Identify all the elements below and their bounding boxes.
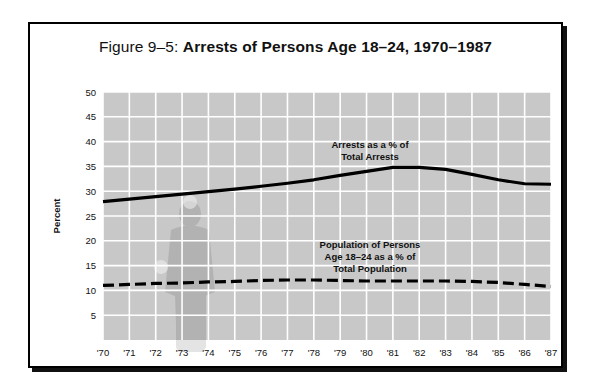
source-note: Source: Data from Census Bureau. [85,369,220,370]
svg-text:'87: '87 [545,347,557,358]
svg-text:Arrests as a % of: Arrests as a % of [331,139,409,150]
figure-number: Figure 9–5: [99,38,179,55]
svg-text:Percent: Percent [51,198,62,234]
x-axis-ticks: '70'71'72'73'74'75'76'77'78'79'80'81'82'… [97,347,557,358]
svg-text:Total Population: Total Population [333,263,407,274]
line-chart: 5101520253035404550 '70'71'72'73'74'75'7… [30,62,565,370]
svg-text:'76: '76 [255,347,267,358]
svg-text:'82: '82 [413,347,425,358]
svg-text:15: 15 [85,260,96,271]
svg-text:5: 5 [91,310,96,321]
svg-text:Total Arrests: Total Arrests [341,151,399,162]
chart-area: 5101520253035404550 '70'71'72'73'74'75'7… [30,62,565,370]
svg-text:'71: '71 [123,347,135,358]
svg-text:'74: '74 [202,347,214,358]
svg-text:40: 40 [85,136,96,147]
svg-text:'80: '80 [360,347,372,358]
y-axis-ticks: 5101520253035404550 [85,87,96,321]
svg-text:Population of Persons: Population of Persons [320,239,421,250]
svg-text:'78: '78 [308,347,320,358]
svg-text:'84: '84 [466,347,478,358]
svg-text:'70: '70 [97,347,109,358]
svg-text:'83: '83 [439,347,451,358]
figure-title-text: Arrests of Persons Age 18–24, 1970–1987 [183,38,492,55]
svg-text:'72: '72 [150,347,162,358]
svg-text:'85: '85 [492,347,504,358]
svg-text:45: 45 [85,111,96,122]
svg-text:'79: '79 [334,347,346,358]
svg-text:'73: '73 [176,347,188,358]
svg-text:Source: Data from Census Burea: Source: Data from Census Bureau. [85,369,220,370]
svg-text:20: 20 [85,235,96,246]
svg-text:50: 50 [85,87,96,98]
page-title: Figure 9–5: Arrests of Persons Age 18–24… [30,38,561,56]
svg-text:'77: '77 [281,347,293,358]
svg-text:35: 35 [85,161,96,172]
figure-frame: Figure 9–5: Arrests of Persons Age 18–24… [28,22,563,368]
svg-text:'75: '75 [229,347,241,358]
svg-text:25: 25 [85,211,96,222]
svg-text:10: 10 [85,285,96,296]
svg-text:30: 30 [85,186,96,197]
svg-text:'86: '86 [518,347,530,358]
svg-text:'81: '81 [387,347,399,358]
y-axis-title: Percent [51,198,62,234]
svg-text:Age 18–24 as a % of: Age 18–24 as a % of [325,251,417,262]
